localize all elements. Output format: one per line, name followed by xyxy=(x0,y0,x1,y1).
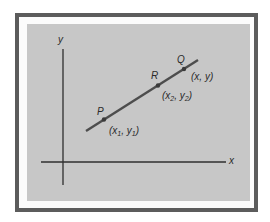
point-r xyxy=(156,83,160,87)
point-q-coords: (x, y) xyxy=(191,71,213,82)
point-r-coords: (x2, y2) xyxy=(162,90,192,102)
coordinate-diagram: y x P R Q (x1, y1) (x2, y2) (x, y) xyxy=(0,0,270,222)
point-p-coords: (x1, y1) xyxy=(109,125,139,137)
point-r-label: R xyxy=(151,70,158,81)
point-p-label: P xyxy=(97,106,104,117)
y-axis-label: y xyxy=(57,34,64,45)
point-q xyxy=(182,67,186,71)
point-q-label: Q xyxy=(177,54,185,65)
point-p xyxy=(102,117,106,121)
x-axis-label: x xyxy=(228,155,235,166)
